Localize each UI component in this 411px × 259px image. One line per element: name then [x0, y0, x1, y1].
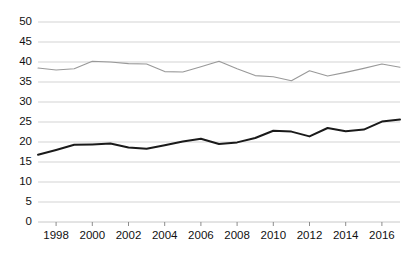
series-line-upper-series: [38, 61, 400, 81]
x-axis-label-2012: 2012: [290, 230, 330, 242]
y-axis-label-25: 25: [6, 116, 32, 128]
y-axis-label-15: 15: [6, 156, 32, 168]
x-axis-label-2002: 2002: [109, 230, 149, 242]
chart-plot-area: [0, 0, 411, 259]
x-axis-tick-marks: [56, 222, 382, 226]
series-line-lower-series: [38, 120, 400, 155]
x-axis-label-2010: 2010: [253, 230, 293, 242]
x-axis-label-2000: 2000: [72, 230, 112, 242]
y-axis-label-45: 45: [6, 36, 32, 48]
y-axis-label-20: 20: [6, 136, 32, 148]
x-axis-label-2004: 2004: [145, 230, 185, 242]
y-axis-label-50: 50: [6, 16, 32, 28]
y-axis-label-10: 10: [6, 176, 32, 188]
y-axis-label-40: 40: [6, 56, 32, 68]
x-axis-label-2008: 2008: [217, 230, 257, 242]
x-axis-label-2016: 2016: [362, 230, 402, 242]
y-axis-label-0: 0: [6, 216, 32, 228]
line-chart: 05101520253035404550 1998200020022004200…: [0, 0, 411, 259]
x-axis-label-1998: 1998: [36, 230, 76, 242]
y-axis-label-35: 35: [6, 76, 32, 88]
y-axis-label-30: 30: [6, 96, 32, 108]
x-axis-label-2006: 2006: [181, 230, 221, 242]
x-axis-label-2014: 2014: [326, 230, 366, 242]
data-series-group: [38, 61, 400, 155]
gridlines: [38, 22, 400, 222]
y-axis-label-5: 5: [6, 196, 32, 208]
